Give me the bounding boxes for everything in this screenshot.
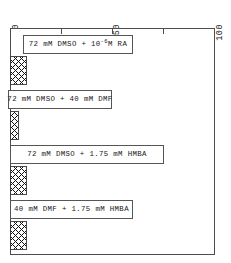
bar-1 — [10, 56, 27, 85]
bar-label-box-1: 72 mM DMSO + 10-6M RA — [23, 35, 133, 54]
bar-label-box-3: 72 mM DMSO + 1.75 mM HMBA — [10, 145, 164, 164]
plot-area — [10, 28, 215, 255]
bar-label-box-2: 72 mM DMSO + 40 mM DMF — [8, 90, 112, 109]
x-axis-tick-50 — [112, 29, 113, 34]
bar-label-text-3: 72 mM DMSO + 1.75 mM HMBA — [27, 151, 147, 158]
x-axis-tick-75 — [163, 29, 164, 34]
bar-4 — [10, 221, 27, 250]
bar-3 — [10, 166, 27, 195]
bar-label-text-4: 40 mM DMF + 1.75 mM HMBA — [14, 206, 129, 213]
x-axis-tick-labels: 0 50 100 — [0, 0, 231, 28]
bar-chart: 0 50 100 72 mM DMSO + 10-6M RA 72 mM DMS… — [0, 0, 231, 263]
bar-label-box-4: 40 mM DMF + 1.75 mM HMBA — [10, 200, 133, 219]
bar-label-text-1: 72 mM DMSO + 10-6M RA — [29, 41, 127, 48]
bar-2 — [10, 111, 19, 140]
x-axis-tick-25 — [61, 29, 62, 34]
bar-label-text-2: 72 mM DMSO + 40 mM DMF — [7, 96, 112, 103]
x-tick-label-100: 100 — [216, 24, 225, 41]
